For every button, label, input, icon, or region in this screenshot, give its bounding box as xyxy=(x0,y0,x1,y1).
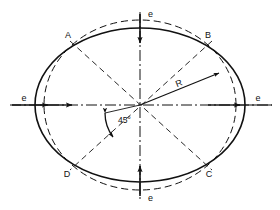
technical-drawing-figure: A B C D R 45° e e e e xyxy=(0,0,280,210)
label-e-right: e xyxy=(255,93,260,103)
label-group: A B C D R 45° e e e e xyxy=(21,9,260,203)
label-e-left: e xyxy=(21,93,26,103)
centerline-group xyxy=(10,12,272,200)
angle-leader-upper xyxy=(105,105,140,113)
label-point-d: D xyxy=(64,169,71,179)
label-point-a: A xyxy=(65,30,71,40)
label-point-b: B xyxy=(205,30,211,40)
label-e-bottom: e xyxy=(148,193,153,203)
drawing-canvas: A B C D R 45° e e e e xyxy=(0,0,280,210)
label-e-top: e xyxy=(148,9,153,19)
angle-arc xyxy=(105,113,113,137)
label-point-c: C xyxy=(206,169,213,179)
label-angle: 45° xyxy=(118,115,131,125)
